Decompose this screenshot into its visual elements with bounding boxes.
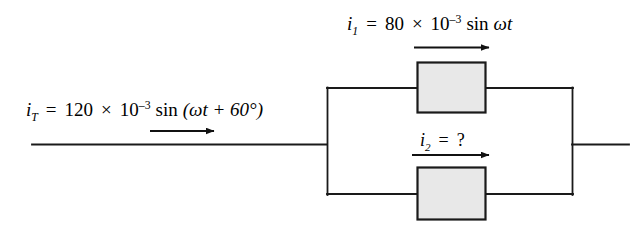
- total-current-argument: (ωt + 60°): [183, 99, 263, 120]
- branch2-current-equation: i2=?: [420, 131, 465, 153]
- impedance-block-2: [418, 168, 486, 220]
- impedance-block-1: [418, 63, 486, 113]
- circuit-diagram-figure: iT=120×10–3sin(ωt + 60°) i1=80×10–3sinωt…: [0, 0, 642, 234]
- total-current-magnitude: 120: [65, 99, 94, 120]
- branch1-current-subscript: 1: [352, 25, 358, 38]
- branch2-current-subscript: 2: [425, 141, 431, 153]
- total-current-equation: iT=120×10–3sin(ωt + 60°): [26, 100, 263, 124]
- branch1-current-exponent: –3: [450, 13, 462, 26]
- total-current-equals: =: [46, 99, 57, 120]
- branch1-current-equals: =: [366, 13, 377, 34]
- branch1-current-base: 10: [431, 13, 450, 34]
- branch1-current-argument: ωt: [494, 13, 513, 34]
- total-current-times-icon: ×: [101, 99, 112, 120]
- branch2-current-equals: =: [439, 130, 449, 150]
- total-current-function: sin: [156, 99, 178, 120]
- branch2-current-value: ?: [457, 130, 465, 150]
- branch1-current-equation: i1=80×10–3sinωt: [347, 14, 512, 38]
- total-current-exponent: –3: [139, 99, 151, 112]
- branch1-current-function: sin: [466, 13, 488, 34]
- branch1-current-magnitude: 80: [385, 13, 404, 34]
- total-current-subscript: T: [31, 111, 38, 124]
- branch1-current-times-icon: ×: [412, 13, 423, 34]
- total-current-base: 10: [120, 99, 139, 120]
